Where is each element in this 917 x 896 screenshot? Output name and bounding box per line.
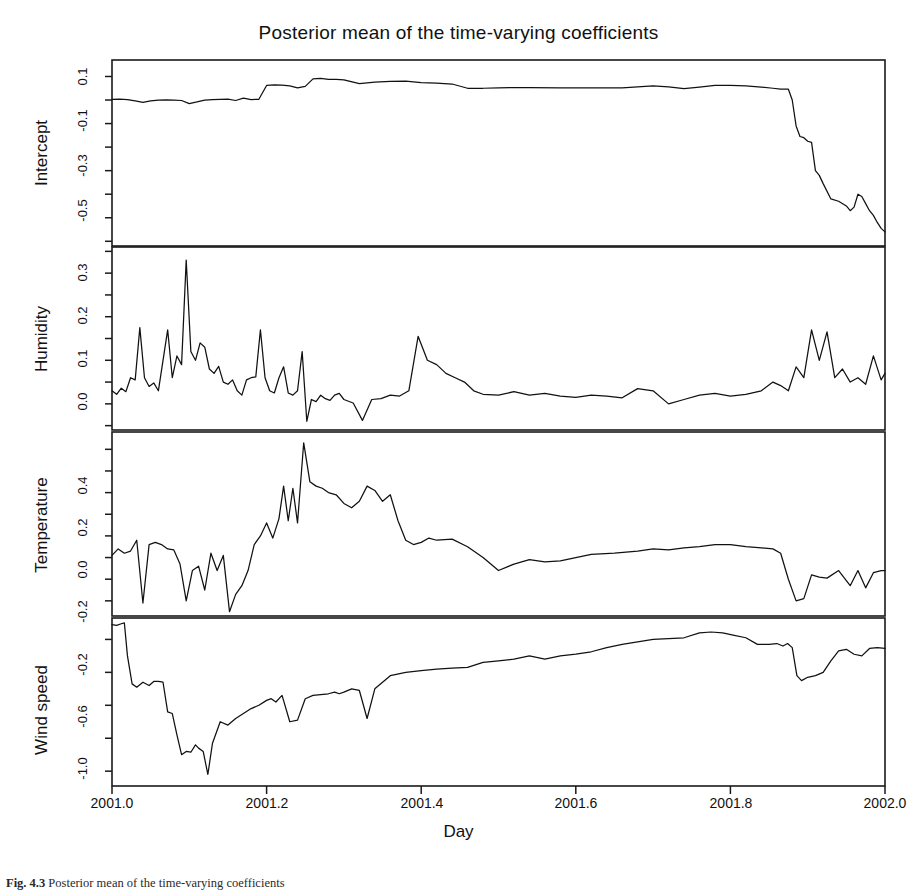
y-tick-intercept-2: -0.3 xyxy=(75,146,90,186)
x-tick-4: 2001.8 xyxy=(696,795,766,811)
y-tick-wind-speed-1: -0.6 xyxy=(75,697,90,737)
panel-wind-speed xyxy=(105,618,885,786)
plot-canvas xyxy=(0,0,917,896)
x-axis-title: Day xyxy=(0,822,917,842)
x-tick-2: 2001.4 xyxy=(387,795,457,811)
y-tick-humidity-3: 0.0 xyxy=(75,384,90,420)
y-tick-temperature-0: 0.4 xyxy=(75,468,90,504)
figure-caption: Fig. 4.3 Posterior mean of the time-vary… xyxy=(6,876,566,894)
y-tick-humidity-0: 0.3 xyxy=(75,255,90,291)
y-tick-wind-speed-0: -0.2 xyxy=(75,645,90,685)
axis-ticks xyxy=(112,786,885,794)
y-axis-title-temperature: Temperature xyxy=(32,450,52,600)
panel-humidity xyxy=(105,247,885,430)
y-tick-humidity-1: 0.2 xyxy=(75,298,90,334)
x-tick-3: 2001.6 xyxy=(541,795,611,811)
y-tick-temperature-3: -0.2 xyxy=(75,592,90,632)
y-tick-humidity-2: 0.1 xyxy=(75,341,90,377)
y-axis-title-intercept: Intercept xyxy=(32,83,52,223)
y-tick-temperature-2: 0.0 xyxy=(75,552,90,588)
panel-temperature xyxy=(105,432,885,616)
y-tick-temperature-1: 0.2 xyxy=(75,510,90,546)
x-tick-5: 2002.0 xyxy=(850,795,917,811)
caption-number: Fig. 4.3 xyxy=(6,876,45,890)
panel-intercept xyxy=(105,60,885,246)
y-tick-intercept-0: 0.1 xyxy=(75,59,90,95)
y-axis-title-wind-speed: Wind speed xyxy=(32,637,52,783)
x-tick-1: 2001.2 xyxy=(232,795,302,811)
y-tick-intercept-1: -0.1 xyxy=(75,101,90,141)
x-tick-0: 2001.0 xyxy=(77,795,147,811)
figure-title: Posterior mean of the time-varying coeff… xyxy=(0,22,917,44)
figure-container: Posterior mean of the time-varying coeff… xyxy=(0,0,917,896)
y-axis-title-humidity: Humidity xyxy=(32,269,52,409)
y-tick-wind-speed-2: -1.0 xyxy=(75,749,90,789)
caption-text: Posterior mean of the time-varying coeff… xyxy=(48,876,284,890)
y-tick-intercept-3: -0.5 xyxy=(75,191,90,231)
